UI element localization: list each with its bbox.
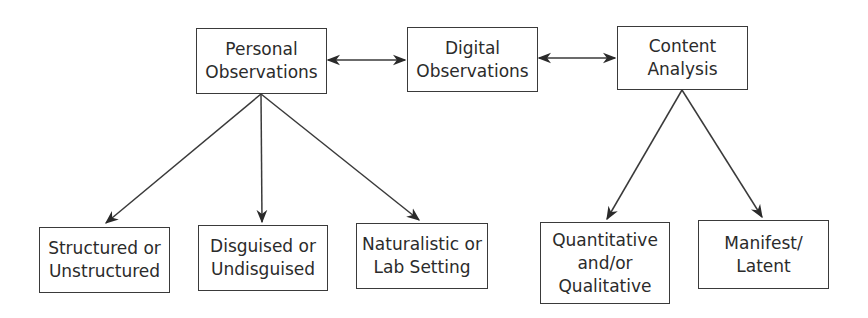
node-label-line: Analysis	[647, 58, 717, 81]
edge-personal-disguised	[261, 94, 262, 222]
node-label-line: Observations	[416, 60, 528, 83]
node-label-line: Content	[647, 35, 717, 58]
node-label-line: Personal	[205, 38, 317, 61]
node-label-line: Manifest/	[724, 232, 802, 255]
edge-content-quantitative	[607, 90, 682, 219]
node-structured-unstructured: Structured orUnstructured	[39, 227, 170, 293]
node-label-line: Lab Setting	[362, 256, 482, 279]
node-disguised-undisguised: Disguised orUndisguised	[198, 225, 328, 291]
node-content-analysis: ContentAnalysis	[617, 26, 748, 90]
node-label-line: and/or	[552, 252, 658, 275]
node-digital-observations: DigitalObservations	[407, 27, 538, 92]
node-label-line: Qualitative	[552, 275, 658, 298]
edge-content-manifest	[682, 90, 762, 217]
node-label-line: Undisguised	[210, 258, 316, 281]
node-label-line: Unstructured	[48, 260, 161, 283]
edge-personal-naturalistic	[261, 94, 419, 220]
node-label-line: Digital	[416, 37, 528, 60]
node-label-line: Disguised or	[210, 235, 316, 258]
node-label-line: Naturalistic or	[362, 233, 482, 256]
node-manifest-latent: Manifest/Latent	[698, 220, 829, 289]
node-naturalistic-lab-setting: Naturalistic orLab Setting	[356, 223, 488, 289]
node-quantitative-qualitative: Quantitativeand/orQualitative	[540, 222, 670, 304]
node-personal-observations: PersonalObservations	[196, 28, 327, 94]
node-label-line: Latent	[724, 255, 802, 278]
edge-personal-structured	[106, 94, 261, 223]
node-label-line: Quantitative	[552, 229, 658, 252]
node-label-line: Structured or	[48, 237, 161, 260]
node-label-line: Observations	[205, 61, 317, 84]
